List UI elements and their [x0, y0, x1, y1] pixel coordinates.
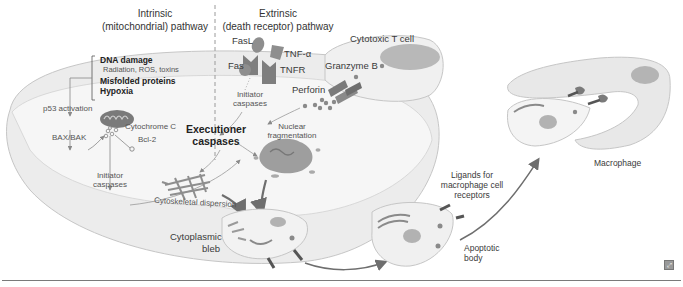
tnfr-label: TNFR: [280, 64, 305, 75]
perforin-label: Perforin: [292, 84, 325, 95]
nuclear-fragmentation-line1: Nuclear: [262, 122, 322, 131]
tnf-alpha-label: TNF-α: [284, 48, 311, 59]
ligands-label-line1: Ligands for: [432, 170, 512, 180]
cytochrome-c-label: Cytochrome C: [125, 122, 176, 131]
extrinsic-header-line1: Extrinsic: [218, 8, 338, 20]
extrinsic-initiator-caspases-line2: caspases: [228, 99, 272, 108]
intrinsic-header-line1: Intrinsic: [100, 8, 210, 20]
intrinsic-initiator-caspases-line2: caspases: [88, 180, 132, 189]
cytoplasmic-bleb-line1: Cytoplasmic: [170, 231, 220, 242]
executioner-caspases-line2: caspases: [176, 135, 256, 147]
trigger-dna-damage-causes: Radiation, ROS, toxins: [103, 65, 179, 74]
expand-icon[interactable]: ⤢: [664, 260, 674, 270]
intrinsic-header-line2: (mitochondrial) pathway: [100, 21, 210, 33]
bcl2-label: Bcl-2: [138, 135, 156, 144]
apoptosis-diagram-canvas: [0, 0, 683, 287]
trigger-misfolded-proteins: Misfolded proteins: [100, 76, 176, 86]
apoptotic-body-line1: Apoptotic: [464, 243, 499, 253]
executioner-caspases-line1: Executioner: [176, 123, 256, 135]
bax-bak-label: BAX/BAK: [52, 133, 86, 142]
macrophage-label: Macrophage: [594, 158, 641, 168]
ligands-label-line2: macrophage cell: [432, 180, 512, 190]
fasl-label: FasL: [232, 35, 253, 46]
extrinsic-initiator-caspases-line1: Initiator: [228, 90, 272, 99]
bottom-divider: [2, 280, 681, 281]
cytotoxic-t-cell-label: Cytotoxic T cell: [350, 33, 414, 44]
trigger-dna-damage: DNA damage: [100, 55, 153, 65]
p53-activation-label: p53 activation: [43, 104, 92, 113]
apoptotic-body-line2: body: [464, 253, 482, 263]
trigger-hypoxia: Hypoxia: [100, 86, 133, 96]
fas-label: Fas: [228, 60, 244, 71]
granzyme-b-label: Granzyme B: [325, 60, 378, 71]
apoptotic-body: [372, 202, 464, 266]
macrophage: [507, 57, 670, 149]
cytoplasmic-bleb-line2: bleb: [170, 243, 220, 254]
nuclear-fragmentation-line2: fragmentation: [262, 131, 322, 140]
ligands-label-line3: receptors: [432, 190, 512, 200]
intrinsic-initiator-caspases-line1: Initiator: [88, 171, 132, 180]
extrinsic-header-line2: (death receptor) pathway: [218, 21, 338, 33]
